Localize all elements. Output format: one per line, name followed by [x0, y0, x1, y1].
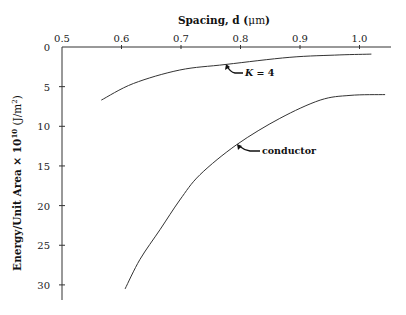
x-tick-label: 0.5 [54, 33, 70, 44]
x-tick-label: 0.7 [173, 33, 189, 44]
y-ticks: 051015202530 [37, 42, 65, 291]
y-tick-label: 30 [37, 280, 50, 291]
annotation-k4: K = 4 [225, 64, 275, 78]
y-tick-label: 0 [44, 42, 50, 53]
y-tick-label: 20 [37, 201, 50, 212]
x-tick-label: 0.8 [233, 33, 249, 44]
x-tick-label: 0.9 [292, 33, 308, 44]
x-tick-label: 1.0 [352, 33, 368, 44]
svg-text:conductor: conductor [262, 145, 317, 156]
svg-text:K = 4: K = 4 [244, 67, 275, 78]
chart: 0.50.60.70.80.91.0 051015202530 Spacing,… [0, 0, 406, 315]
annotation-conductor-arrow [239, 146, 260, 151]
x-tick-label: 0.6 [114, 33, 130, 44]
y-tick-label: 10 [37, 121, 50, 132]
y-axis-title: Energy/Unit Area × 1010 (J/m2) [10, 95, 23, 271]
y-tick-label: 15 [37, 161, 50, 172]
y-tick-label: 5 [44, 82, 50, 93]
annotation-conductor: conductor [237, 144, 317, 156]
series-conductor-line [125, 95, 385, 289]
x-axis-title: Spacing, d (μm) [178, 14, 270, 26]
series-k4-line [101, 54, 371, 100]
y-tick-label: 25 [37, 240, 50, 251]
